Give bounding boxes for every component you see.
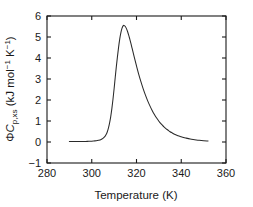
chart-canvas: 280300320340360 6543210−1 Temperature (K… (0, 0, 253, 207)
y-axis-tick-labels: 6543210−1 (28, 10, 41, 169)
y-tick-label: −1 (28, 157, 41, 169)
x-tick-label: 340 (172, 167, 190, 179)
y-tick-label: 5 (35, 31, 41, 43)
x-axis-ticks (47, 16, 226, 163)
y-axis-title-group: ΦCp,xs (kJ mol−1 K−1) (3, 36, 19, 142)
y-tick-label: 4 (35, 52, 41, 64)
y-tick-label: 3 (35, 73, 41, 85)
y-axis-ticks (47, 16, 226, 163)
y-tick-label: 6 (35, 10, 41, 22)
x-tick-label: 320 (127, 167, 145, 179)
x-tick-label: 300 (83, 167, 101, 179)
figure-container: 280300320340360 6543210−1 Temperature (K… (0, 0, 253, 207)
y-tick-label: 1 (35, 115, 41, 127)
data-curve-excess-heat-capacity (69, 25, 208, 141)
plot-frame (47, 16, 226, 163)
y-tick-label: 0 (35, 136, 41, 148)
x-tick-label: 360 (217, 167, 235, 179)
y-axis-title: ΦCp,xs (kJ mol−1 K−1) (3, 36, 19, 142)
x-axis-title: Temperature (K) (94, 189, 177, 201)
x-axis-tick-labels: 280300320340360 (38, 167, 235, 179)
y-tick-label: 2 (35, 94, 41, 106)
